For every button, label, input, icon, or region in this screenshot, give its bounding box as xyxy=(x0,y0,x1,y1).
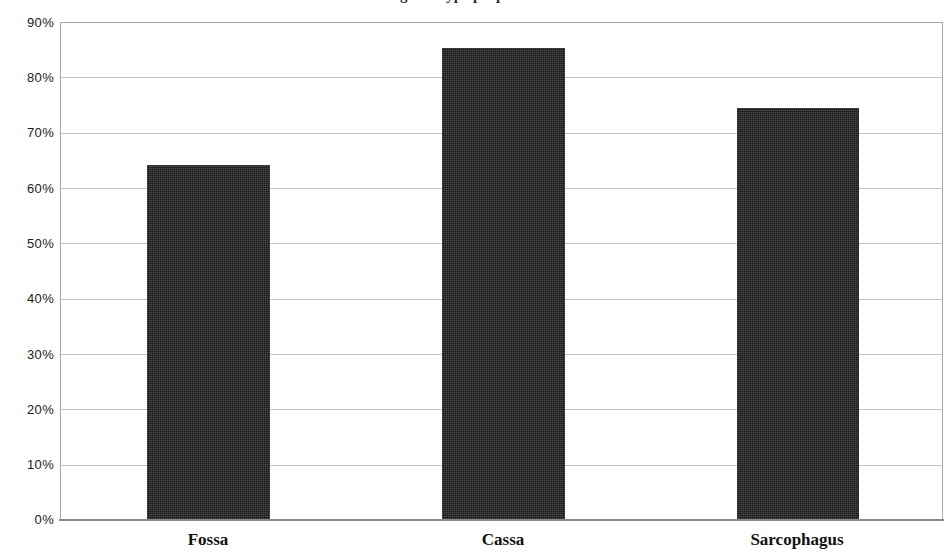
chart-title-cropped: grave type proportions xyxy=(0,0,951,3)
y-tick-label-90: 90% xyxy=(2,15,54,30)
y-tick-label-0: 0% xyxy=(2,512,54,527)
y-tick-label-20: 20% xyxy=(2,402,54,417)
y-tick-label-10: 10% xyxy=(2,457,54,472)
x-axis-line xyxy=(59,519,944,521)
y-tick-label-50: 50% xyxy=(2,236,54,251)
plot-area xyxy=(60,22,943,520)
y-tick-label-60: 60% xyxy=(2,181,54,196)
bar-fossa xyxy=(147,165,270,519)
bar-cassa xyxy=(442,48,565,519)
y-tick-label-80: 80% xyxy=(2,70,54,85)
x-label-fossa: Fossa xyxy=(188,530,229,550)
y-axis-tick-labels: 90% 80% 70% 60% 50% 40% 30% 20% 10% 0% xyxy=(0,0,54,560)
x-label-sarcophagus: Sarcophagus xyxy=(750,530,843,550)
y-tick-label-40: 40% xyxy=(2,291,54,306)
chart-screenshot: grave type proportions 90% 80% 70% 60% 5… xyxy=(0,0,951,560)
y-tick-label-30: 30% xyxy=(2,347,54,362)
y-tick-label-70: 70% xyxy=(2,125,54,140)
x-label-cassa: Cassa xyxy=(482,530,525,550)
bar-sarcophagus xyxy=(737,108,859,519)
